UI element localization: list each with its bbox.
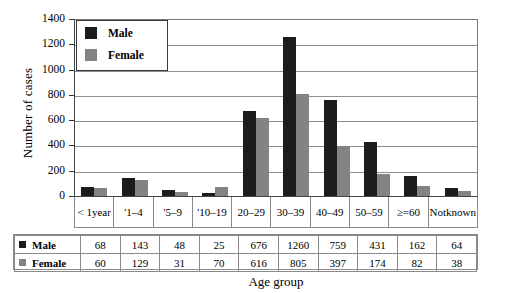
category-label-line: Not — [430, 206, 447, 218]
y-tick-label-1200: 1200 — [42, 38, 65, 49]
legend-label-female: Female — [108, 49, 144, 61]
table-cell: 759 — [318, 236, 358, 254]
bar-group — [357, 19, 397, 196]
x-axis-title: Age group — [74, 274, 478, 290]
y-tick-label-600: 600 — [48, 114, 65, 125]
bar-group — [316, 19, 356, 196]
y-tick-label-1000: 1000 — [42, 64, 65, 75]
table-cell: 616 — [239, 254, 279, 272]
bar-male — [81, 187, 94, 196]
category-label-line: '1–4 — [124, 206, 142, 218]
bar-male — [324, 100, 337, 196]
table-cell: 397 — [318, 254, 358, 272]
table-cell: 38 — [437, 254, 477, 272]
category-label-line: 50–59 — [355, 206, 383, 218]
bar-female — [175, 192, 188, 196]
table-swatch-male-icon — [19, 241, 26, 248]
category-label-line: ≥=60 — [397, 206, 420, 218]
table-series-label-male: Male — [15, 236, 81, 254]
table-cell: 82 — [397, 254, 437, 272]
table-cell: 48 — [160, 236, 200, 254]
data-table: Male681434825676126075943116264Female601… — [13, 234, 478, 270]
bar-female — [377, 174, 390, 196]
category-label-line: 20–29 — [238, 206, 266, 218]
table-row: Female6012931706168053971748238 — [15, 254, 477, 272]
category-label-line: known — [446, 206, 476, 218]
y-tick-label-400: 400 — [48, 139, 65, 150]
table-cell: 31 — [160, 254, 200, 272]
chart-legend: Male Female — [76, 20, 168, 71]
table-cell: 68 — [81, 236, 121, 254]
table-row: Male681434825676126075943116264 — [15, 236, 477, 254]
table-cell: 174 — [358, 254, 398, 272]
table-series-name: Male — [32, 239, 56, 251]
bar-male — [283, 37, 296, 196]
bar-group — [397, 19, 437, 196]
table-cell: 1260 — [278, 236, 318, 254]
y-tick-label-1400: 1400 — [42, 13, 65, 24]
table-cell: 64 — [437, 236, 477, 254]
category-label-line: year — [92, 206, 111, 218]
y-tick-label-200: 200 — [48, 165, 65, 176]
legend-swatch-female-icon — [85, 49, 97, 61]
category-label-line: < 1 — [77, 206, 91, 218]
chart-figure: Number of cases 020040060080010001200140… — [0, 0, 511, 293]
category-label-5: 30–39 — [271, 197, 310, 227]
y-tick-label-0: 0 — [59, 190, 65, 201]
legend-swatch-male-icon — [85, 27, 97, 39]
bar-male — [404, 176, 417, 196]
category-label-1: '1–4 — [114, 197, 153, 227]
bar-male — [445, 188, 458, 196]
legend-label-male: Male — [108, 27, 133, 39]
bar-female — [337, 146, 350, 196]
category-label-2: '5–9 — [154, 197, 193, 227]
table-cell: 70 — [199, 254, 239, 272]
category-label-4: 20–29 — [232, 197, 271, 227]
category-label-0: < 1year — [75, 197, 114, 227]
y-tick-label-800: 800 — [48, 89, 65, 100]
category-label-line: '5–9 — [163, 206, 181, 218]
bar-female — [296, 94, 309, 196]
bar-female — [417, 186, 430, 196]
bar-group — [195, 19, 235, 196]
category-label-line: 30–39 — [277, 206, 305, 218]
bar-female — [458, 191, 471, 196]
category-label-6: 40–49 — [311, 197, 350, 227]
category-label-line: 40–49 — [316, 206, 344, 218]
bar-male — [243, 111, 256, 196]
bar-male — [202, 193, 215, 196]
table-swatch-female-icon — [19, 259, 26, 266]
table-series-name: Female — [32, 257, 66, 269]
table-series-label-female: Female — [15, 254, 81, 272]
table-cell: 162 — [397, 236, 437, 254]
bar-male — [162, 190, 175, 196]
legend-item-male: Male — [85, 27, 133, 39]
bar-group — [276, 19, 316, 196]
bar-group — [438, 19, 478, 196]
table-cell: 25 — [199, 236, 239, 254]
legend-item-female: Female — [85, 49, 144, 61]
bar-female — [256, 118, 269, 196]
bar-male — [122, 178, 135, 196]
bar-female — [135, 180, 148, 196]
table-cell: 676 — [239, 236, 279, 254]
category-label-9: Notknown — [429, 197, 477, 227]
category-label-3: '10–19 — [193, 197, 232, 227]
table-cell: 143 — [120, 236, 160, 254]
data-table-grid: Male681434825676126075943116264Female601… — [14, 235, 477, 272]
category-label-line: '10–19 — [197, 206, 226, 218]
category-label-8: ≥=60 — [389, 197, 428, 227]
table-cell: 129 — [120, 254, 160, 272]
table-cell: 805 — [278, 254, 318, 272]
bar-female — [94, 188, 107, 196]
bar-group — [236, 19, 276, 196]
category-label-7: 50–59 — [350, 197, 389, 227]
category-axis: < 1year'1–4'5–9'10–1920–2930–3940–4950–5… — [74, 197, 478, 228]
bar-female — [215, 187, 228, 196]
bar-male — [364, 142, 377, 196]
table-cell: 60 — [81, 254, 121, 272]
table-cell: 431 — [358, 236, 398, 254]
